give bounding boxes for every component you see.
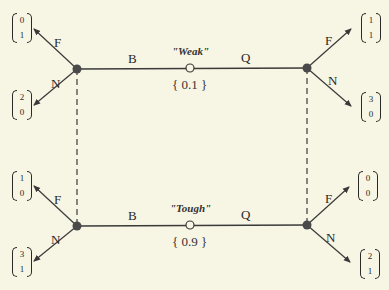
not-fight-label-bl: N [51, 233, 60, 246]
probability-tough: { 0.9 } [172, 235, 207, 248]
payoff-tough-beer-not: 3 1 [12, 247, 32, 277]
node-weak-beer [73, 65, 82, 74]
not-fight-label-br: N [326, 231, 335, 244]
payoff-tough-quiche-fight: 0 0 [358, 171, 378, 201]
not-fight-label-tr: N [328, 74, 337, 87]
fight-label-tl: F [54, 36, 61, 49]
payoff-tough-quiche-not: 2 1 [360, 249, 380, 279]
action-beer-tough: B [128, 209, 137, 222]
payoff-weak-quiche-not: 3 0 [361, 92, 381, 122]
nature-node-weak [186, 64, 194, 72]
payoff-tough-beer-fight: 1 0 [12, 171, 32, 201]
action-quiche-tough: Q [241, 208, 250, 221]
fight-label-tr: F [325, 34, 332, 47]
type-label-tough: "Tough" [170, 203, 211, 214]
probability-weak: { 0.1 } [172, 78, 207, 91]
not-fight-label-tl: N [51, 77, 60, 90]
fight-label-br: F [325, 192, 332, 205]
action-quiche-weak: Q [241, 51, 250, 64]
node-tough-quiche [303, 221, 312, 230]
payoff-weak-quiche-fight: 1 1 [361, 13, 381, 43]
payoff-weak-beer-fight: 0 1 [12, 13, 32, 43]
action-beer-weak: B [128, 52, 137, 65]
payoff-weak-beer-not: 2 0 [12, 90, 32, 120]
nature-node-tough [186, 221, 194, 229]
node-weak-quiche [303, 64, 312, 73]
fight-label-bl: F [54, 193, 61, 206]
node-tough-beer [73, 222, 82, 231]
type-label-weak: "Weak" [172, 46, 209, 57]
